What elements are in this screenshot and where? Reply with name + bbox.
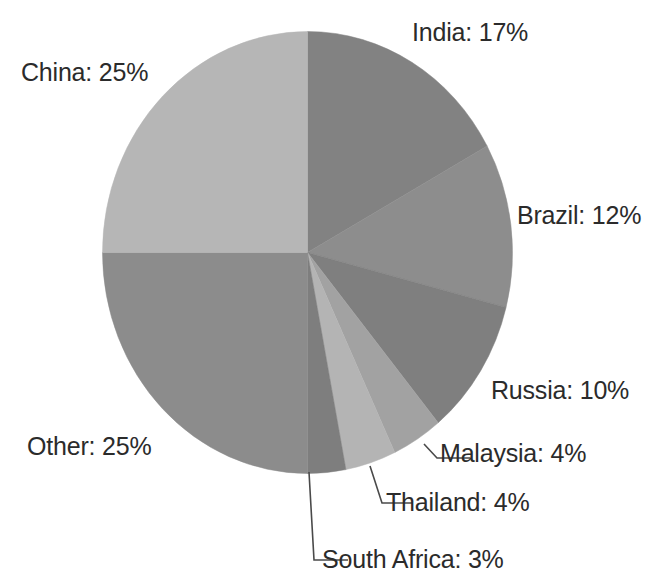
pie-label-other: Other: 25% <box>27 434 151 459</box>
pie-label-china: China: 25% <box>21 60 148 85</box>
pie-label-malaysia: Malaysia: 4% <box>440 441 586 466</box>
pie-label-brazil: Brazil: 12% <box>517 203 641 228</box>
chart-canvas: India: 17% China: 25% Brazil: 12% Russia… <box>0 0 660 588</box>
pie-chart-graphic <box>0 0 660 588</box>
pie-label-south-africa: South Africa: 3% <box>322 547 504 572</box>
pie-label-russia: Russia: 10% <box>491 378 629 403</box>
pie-label-india: India: 17% <box>412 20 528 45</box>
pie-label-thailand: Thailand: 4% <box>386 490 530 515</box>
pie-slice-group <box>103 32 513 474</box>
